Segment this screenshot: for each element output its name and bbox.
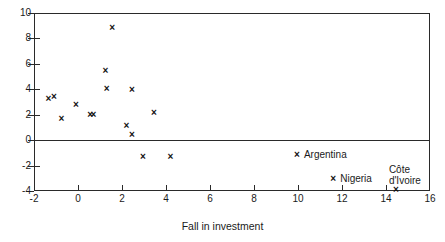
data-point: × [101, 66, 110, 75]
data-point: × [149, 108, 158, 117]
x-axis-title: Fall in investment [0, 220, 445, 232]
x-tick-14 [386, 185, 387, 191]
x-tick-label: 6 [195, 193, 225, 204]
data-point: × [138, 152, 147, 161]
x-tick-4 [166, 185, 167, 191]
y-tick-inner-neg2 [34, 166, 40, 167]
x-tick-label: 16 [415, 193, 445, 204]
point-label-line: d'Ivoire [389, 176, 431, 187]
data-point: × [127, 85, 136, 94]
data-point-nigeria: × [329, 174, 338, 183]
y-tick-label: 8 [7, 33, 31, 43]
point-label-line: Nigeria [340, 174, 372, 185]
y-tick-label: 10 [7, 8, 31, 18]
point-label-nigeria: Nigeria [340, 174, 372, 185]
x-tick-label: 0 [63, 193, 93, 204]
x-tick-label: 12 [327, 193, 357, 204]
point-label-line: Argentina [304, 150, 347, 161]
cropped-title-fragment [100, 0, 270, 7]
x-tick-label: 14 [371, 193, 401, 204]
x-tick-10 [298, 185, 299, 191]
x-tick-label: 8 [239, 193, 269, 204]
data-point: × [89, 110, 98, 119]
y-tick-label: 4 [7, 84, 31, 94]
data-point: × [166, 152, 175, 161]
y-tick-label: 0 [7, 135, 31, 145]
x-tick-6 [210, 185, 211, 191]
data-point: × [102, 84, 111, 93]
y-tick-label: -2 [7, 161, 31, 171]
y-tick-inner-6 [34, 64, 40, 65]
point-label-c-te-d-ivoire: Côted'Ivoire [389, 165, 431, 186]
data-point: × [108, 23, 117, 32]
plot-frame [34, 13, 430, 191]
y-tick-inner-8 [34, 38, 40, 39]
x-tick-2 [122, 185, 123, 191]
point-label-argentina: Argentina [304, 150, 347, 161]
x-tick-8 [254, 185, 255, 191]
y-tick-inner-4 [34, 89, 40, 90]
x-tick-12 [342, 185, 343, 191]
scatter-plot-figure: -4-20246810 -20246810121416 ××××××××××××… [0, 0, 445, 242]
data-point: × [49, 92, 58, 101]
data-point: × [127, 130, 136, 139]
zero-reference-line [34, 140, 430, 141]
x-tick-label: 10 [283, 193, 313, 204]
x-tick-0 [78, 185, 79, 191]
data-point: × [71, 100, 80, 109]
x-tick-label: 2 [107, 193, 137, 204]
y-tick-inner-2 [34, 115, 40, 116]
x-tick-label: 4 [151, 193, 181, 204]
data-point-argentina: × [292, 150, 301, 159]
y-tick-label: 6 [7, 59, 31, 69]
point-label-line: Côte [389, 165, 431, 176]
data-point: × [57, 114, 66, 123]
x-tick-label: -2 [19, 193, 49, 204]
y-tick-label: 2 [7, 110, 31, 120]
